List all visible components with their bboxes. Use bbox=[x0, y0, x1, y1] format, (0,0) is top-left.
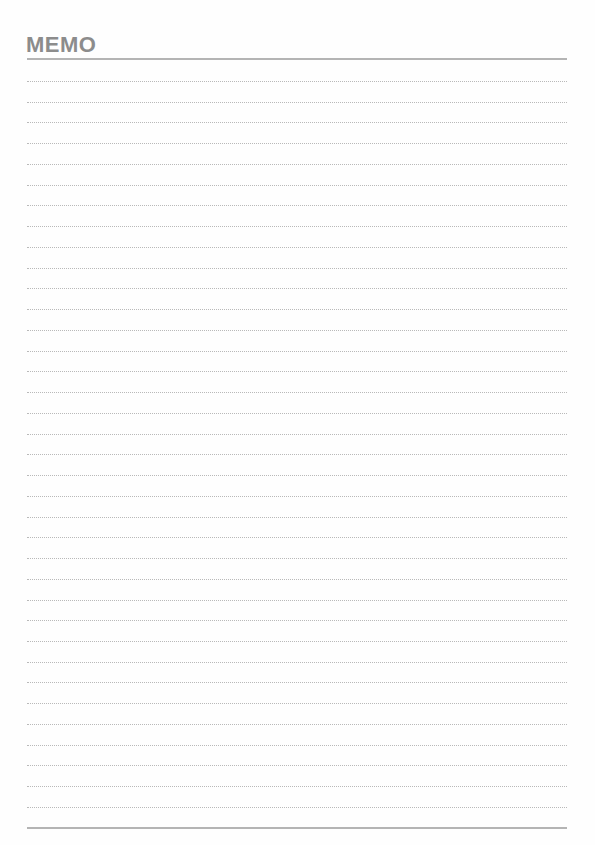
writing-line bbox=[27, 288, 567, 289]
writing-line bbox=[27, 226, 567, 227]
writing-line bbox=[27, 205, 567, 206]
writing-line bbox=[27, 413, 567, 414]
writing-line bbox=[27, 600, 567, 601]
writing-line bbox=[27, 247, 567, 248]
writing-line bbox=[27, 330, 567, 331]
writing-line bbox=[27, 579, 567, 580]
writing-line bbox=[27, 81, 567, 82]
writing-line bbox=[27, 786, 567, 787]
header-rule bbox=[27, 58, 567, 60]
writing-line bbox=[27, 662, 567, 663]
writing-line bbox=[27, 745, 567, 746]
writing-line bbox=[27, 454, 567, 455]
writing-line bbox=[27, 268, 567, 269]
writing-line bbox=[27, 517, 567, 518]
writing-line bbox=[27, 102, 567, 103]
writing-line bbox=[27, 434, 567, 435]
writing-line bbox=[27, 641, 567, 642]
page-title: MEMO bbox=[26, 33, 96, 57]
writing-line bbox=[27, 164, 567, 165]
memo-page: MEMO bbox=[0, 0, 595, 845]
writing-line bbox=[27, 703, 567, 704]
writing-line bbox=[27, 724, 567, 725]
writing-line bbox=[27, 537, 567, 538]
writing-line bbox=[27, 475, 567, 476]
writing-line bbox=[27, 185, 567, 186]
writing-line bbox=[27, 143, 567, 144]
writing-line bbox=[27, 392, 567, 393]
writing-line bbox=[27, 765, 567, 766]
writing-line bbox=[27, 496, 567, 497]
writing-line bbox=[27, 558, 567, 559]
writing-line bbox=[27, 371, 567, 372]
writing-line bbox=[27, 351, 567, 352]
writing-line bbox=[27, 807, 567, 808]
writing-line bbox=[27, 122, 567, 123]
footer-rule bbox=[27, 827, 567, 829]
writing-line bbox=[27, 309, 567, 310]
writing-line bbox=[27, 620, 567, 621]
writing-line bbox=[27, 682, 567, 683]
